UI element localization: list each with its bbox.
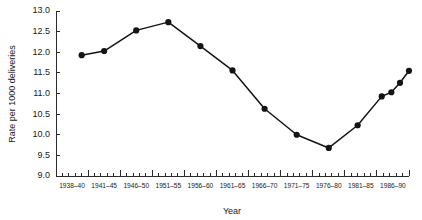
x-tick-label: 1971–75: [284, 182, 310, 189]
x-tick-label: 1986–90: [380, 182, 406, 189]
x-tick-label: 1946–50: [123, 182, 149, 189]
y-tick-label: 12.0: [32, 47, 50, 57]
x-axis-ticks: [56, 170, 409, 176]
y-tick-label: 9.5: [37, 150, 50, 160]
line-chart: 9.09.510.010.511.011.512.012.513.0 1938–…: [0, 0, 422, 220]
x-tick-label: 1981–85: [348, 182, 374, 189]
data-point: [133, 27, 139, 33]
data-point: [261, 106, 267, 112]
x-tick-label: 1938–40: [59, 182, 85, 189]
x-tick-label: 1966–70: [252, 182, 278, 189]
data-point: [326, 145, 332, 151]
x-tick-label: 1961–65: [220, 182, 246, 189]
data-point: [197, 43, 203, 49]
y-tick-label: 10.5: [32, 109, 50, 119]
data-point: [79, 52, 85, 58]
data-point: [101, 48, 107, 54]
x-tick-label: 1976–80: [316, 182, 342, 189]
data-point: [406, 68, 412, 74]
data-series-line: [82, 22, 409, 148]
y-tick-label: 11.5: [33, 67, 50, 77]
y-axis-tick-labels: 9.09.510.010.511.011.512.012.513.0: [32, 5, 50, 180]
data-point: [355, 122, 361, 128]
y-tick-label: 13.0: [32, 5, 50, 15]
data-point: [388, 89, 394, 95]
x-tick-label: 1941–45: [91, 182, 117, 189]
y-axis-title: Rate per 1000 deliveries: [7, 45, 17, 143]
y-tick-label: 11.0: [33, 88, 50, 98]
data-point: [397, 80, 403, 86]
y-tick-label: 10.0: [32, 129, 50, 139]
x-axis-title: Year: [223, 206, 241, 216]
y-tick-label: 12.5: [32, 26, 50, 36]
x-tick-label: 1956–60: [188, 182, 214, 189]
y-axis-ticks: [56, 11, 60, 176]
data-point: [165, 19, 171, 25]
y-tick-label: 9.0: [37, 170, 50, 180]
data-point: [229, 67, 235, 73]
data-point: [379, 93, 385, 99]
data-point: [294, 132, 300, 138]
x-tick-label: 1951–55: [155, 182, 181, 189]
x-axis-tick-labels: 1938–401941–451946–501951–551956–601961–…: [59, 182, 406, 189]
chart-container: 9.09.510.010.511.011.512.012.513.0 1938–…: [0, 0, 422, 220]
